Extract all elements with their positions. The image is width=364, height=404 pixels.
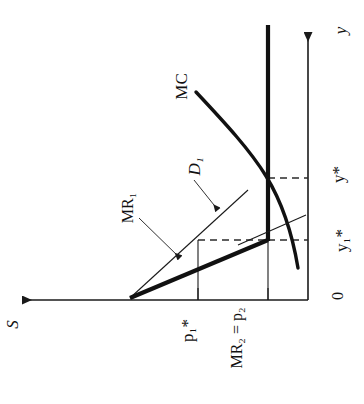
origin-label: 0 [330,292,346,300]
tick-label-mr2-equals-p2: MR₂ = p₂ [229,307,245,368]
curve-label-d1: D₁ [186,157,203,175]
diagram-svg [0,0,364,404]
tick-label-y1-star: y₁* [333,229,350,252]
tick-label-y-star: y* [330,166,347,183]
dashed-guides [198,178,308,240]
curve-label-mc: MC [173,73,190,99]
curve-D1 [130,190,248,298]
figure-canvas: S p₁* MR₂ = p₂ y y* y₁* 0 MC D₁ MR₁ [0,0,364,404]
curve-label-mr1: MR₁ [120,193,136,223]
tick-label-p1-star: p₁* [179,319,196,342]
axis-label-y: y [332,27,349,35]
s-axis-ticks [198,288,268,300]
axis-label-s: S [4,320,21,329]
curve-MR1 [130,240,268,298]
leader-lines [139,180,218,258]
construction-lines [198,240,268,300]
